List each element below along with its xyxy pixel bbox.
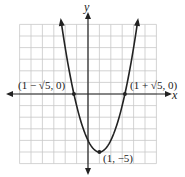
point-marker <box>72 92 76 96</box>
point-marker <box>123 92 127 96</box>
y-axis-label: y <box>83 0 90 14</box>
parabola-graph: y x (1 − √5, 0) (1 + √5, 0) (1, −5) <box>0 0 185 177</box>
x-axis-right-arrow-icon <box>165 91 172 97</box>
right-root-label: (1 + √5, 0) <box>130 79 177 92</box>
y-axis-down-arrow-icon <box>85 168 91 175</box>
curve-left-arrow-icon <box>59 18 65 26</box>
vertex-label: (1, −5) <box>103 152 133 165</box>
left-root-label: (1 − √5, 0) <box>18 79 65 92</box>
x-axis-left-arrow-icon <box>6 91 13 97</box>
point-marker <box>97 150 101 154</box>
curve-right-arrow-icon <box>134 18 140 26</box>
